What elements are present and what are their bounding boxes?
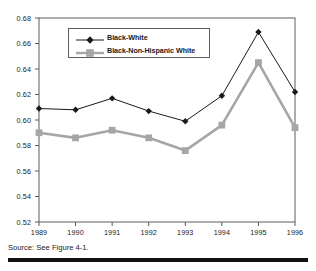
y-axis-tick-label: 0.64 (5, 65, 31, 74)
x-axis-tick-label: 1994 (205, 228, 239, 237)
y-axis-tick-label: 0.68 (5, 14, 31, 23)
x-axis-tick-label: 1996 (278, 228, 312, 237)
legend-label-series-2: Black-Non-Hispanic White (107, 46, 195, 55)
y-axis-tick-label: 0.54 (5, 192, 31, 201)
bottom-rule-divider (8, 258, 308, 262)
legend-label-series-1: Black-White (107, 33, 148, 42)
x-axis-tick-label: 1990 (59, 228, 93, 237)
y-axis-tick-label: 0.60 (5, 116, 31, 125)
legend-item-series-2: Black-Non-Hispanic White (69, 44, 209, 57)
legend-marker-diamond-icon (75, 32, 105, 44)
y-axis-tick-label: 0.62 (5, 90, 31, 99)
legend-item-series-1: Black-White (69, 31, 209, 44)
source-note: Source: See Figure 4-1. (8, 243, 89, 252)
x-axis-tick-label: 1989 (22, 228, 56, 237)
x-axis-tick-label: 1993 (168, 228, 202, 237)
y-axis-tick-label: 0.52 (5, 218, 31, 227)
y-axis-tick-label: 0.56 (5, 167, 31, 176)
figure-container: 0.520.540.560.580.600.620.640.660.68 198… (0, 0, 316, 271)
x-axis-tick-label: 1991 (95, 228, 129, 237)
chart-area: 0.520.540.560.580.600.620.640.660.68 198… (0, 6, 316, 238)
y-axis-tick-label: 0.58 (5, 141, 31, 150)
legend-marker-square-icon (75, 45, 105, 57)
chart-legend: Black-White Black-Non-Hispanic White (68, 28, 210, 58)
x-axis-tick-label: 1992 (132, 228, 166, 237)
y-axis-tick-label: 0.66 (5, 39, 31, 48)
x-axis-tick-label: 1995 (241, 228, 275, 237)
